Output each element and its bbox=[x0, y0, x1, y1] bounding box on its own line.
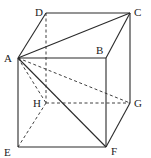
visible-edges bbox=[18, 13, 130, 147]
vertex-label-d: D bbox=[35, 6, 43, 18]
vertex-label-f: F bbox=[111, 145, 117, 157]
cube-diagram: ABCDEFGH bbox=[0, 0, 151, 158]
vertex-label-g: G bbox=[134, 97, 142, 109]
edge-AC bbox=[18, 13, 130, 58]
vertex-label-h: H bbox=[33, 97, 41, 109]
vertex-label-a: A bbox=[4, 52, 12, 64]
vertex-label-e: E bbox=[4, 146, 11, 158]
edge-AF bbox=[18, 58, 106, 147]
edge-AH bbox=[18, 58, 46, 103]
hidden-edges bbox=[18, 13, 130, 147]
edge-FG bbox=[106, 103, 130, 147]
vertex-label-b: B bbox=[96, 44, 103, 56]
edge-HE bbox=[18, 103, 46, 147]
vertex-label-c: C bbox=[134, 6, 141, 18]
edge-DA bbox=[18, 13, 46, 58]
cube-svg: ABCDEFGH bbox=[0, 0, 151, 158]
edge-BC bbox=[106, 13, 130, 58]
